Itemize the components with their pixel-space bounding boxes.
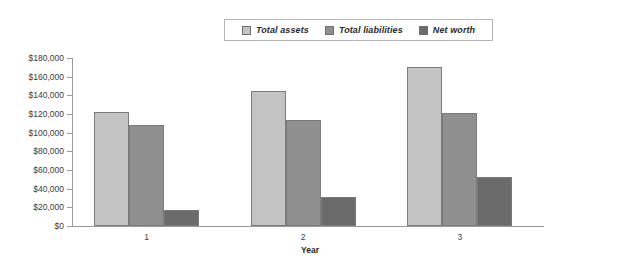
legend-label-net-worth: Net worth [433,25,475,35]
y-tick-label: $40,000 [2,184,64,194]
x-axis-title: Year [0,245,620,255]
y-tick-label: $80,000 [2,146,64,156]
bar[interactable] [164,210,199,226]
legend-swatch-total-assets [242,26,251,35]
bar[interactable] [94,112,129,226]
x-tick-label: 1 [144,232,149,242]
legend-entry-total-liabilities: Total liabilities [325,25,403,35]
y-tick-mark [67,58,72,59]
x-axis-line [72,226,544,227]
y-tick-mark [67,151,72,152]
x-tick-label: 3 [457,232,462,242]
y-tick-mark [67,170,72,171]
x-tick-label: 2 [301,232,306,242]
y-tick-label: $120,000 [2,109,64,119]
y-tick-label: $0 [2,221,64,231]
bar-group [94,58,199,226]
y-tick-mark [67,226,72,227]
bar[interactable] [407,67,442,226]
y-tick-mark [67,77,72,78]
plot-area: $0$20,000$40,000$60,000$80,000$100,000$1… [72,58,542,226]
y-tick-label: $160,000 [2,72,64,82]
legend-swatch-total-liabilities [325,26,334,35]
bar-group [251,58,356,226]
bar[interactable] [321,197,356,226]
y-tick-mark [67,207,72,208]
y-tick-mark [67,95,72,96]
bar-group [407,58,512,226]
bar[interactable] [442,113,477,226]
bar[interactable] [477,177,512,226]
y-tick-label: $100,000 [2,128,64,138]
y-tick-label: $180,000 [2,53,64,63]
y-tick-label: $140,000 [2,90,64,100]
y-tick-label: $20,000 [2,202,64,212]
y-tick-mark [67,189,72,190]
bar-chart-figure: Total assets Total liabilities Net worth… [0,0,620,268]
legend-label-total-liabilities: Total liabilities [339,25,403,35]
y-tick-mark [67,133,72,134]
legend-entry-net-worth: Net worth [419,25,475,35]
legend-label-total-assets: Total assets [256,25,309,35]
legend-entry-total-assets: Total assets [242,25,309,35]
legend-swatch-net-worth [419,26,428,35]
chart-legend: Total assets Total liabilities Net worth [224,19,493,41]
bar[interactable] [129,125,164,226]
bar[interactable] [251,91,286,226]
y-tick-mark [67,114,72,115]
y-tick-label: $60,000 [2,165,64,175]
bar[interactable] [286,120,321,226]
